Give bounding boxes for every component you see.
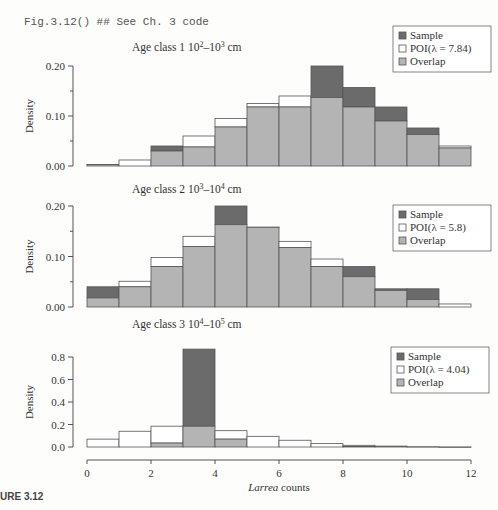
legend: SamplePOI(λ = 4.04)Overlap	[391, 347, 489, 393]
legend-label: POI(λ = 4.04)	[408, 363, 470, 376]
panel-title: Age class 2 103–104 cm	[132, 182, 242, 196]
poi-bar	[439, 447, 471, 448]
poi-bar	[311, 259, 343, 267]
sample-bar	[183, 349, 215, 426]
overlap-bar	[215, 225, 247, 307]
sample-bar	[407, 289, 439, 300]
y-tick-label: 0.10	[46, 251, 66, 263]
overlap-bar	[215, 127, 247, 166]
poi-bar	[183, 136, 215, 147]
poi-bar	[375, 446, 407, 447]
histogram-figure: Age class 1 102–103 cm0.000.100.20Densit…	[0, 0, 498, 510]
poi-bar	[151, 426, 183, 443]
poi-bar	[119, 281, 151, 287]
y-tick-label: 0.4	[51, 396, 65, 408]
legend: SamplePOI(λ = 5.8)Overlap	[393, 205, 491, 251]
overlap-bar	[151, 443, 183, 447]
overlap-bar	[183, 426, 215, 447]
panel-title: Age class 1 102–103 cm	[132, 40, 242, 54]
legend-poi-swatch-icon	[399, 224, 406, 231]
overlap-bar	[87, 165, 119, 167]
y-axis-label: Density	[23, 384, 35, 419]
legend-label: Sample	[410, 208, 443, 220]
overlap-bar	[87, 298, 119, 307]
overlap-bar	[439, 148, 471, 166]
legend-label: Overlap	[408, 376, 444, 388]
y-tick-label: 0.8	[51, 351, 65, 363]
poi-bar	[151, 258, 183, 267]
poi-bar	[279, 241, 311, 247]
x-tick-label: 0	[84, 467, 90, 479]
overlap-bar	[247, 107, 279, 166]
overlap-bar	[183, 246, 215, 307]
y-axis-label: Density	[23, 239, 35, 274]
legend-label: POI(λ = 5.8)	[410, 221, 466, 234]
poi-bar	[279, 96, 311, 107]
overlap-bar	[311, 267, 343, 307]
poi-bar	[215, 119, 247, 128]
y-tick-label: 0.2	[51, 419, 65, 431]
poi-bar	[119, 431, 151, 447]
y-tick-label: 0.6	[51, 374, 65, 386]
legend: SamplePOI(λ = 7.84)Overlap	[393, 26, 491, 72]
legend-label: Overlap	[410, 234, 446, 246]
overlap-bar	[119, 287, 151, 307]
overlap-bar	[407, 135, 439, 167]
overlap-bar	[151, 267, 183, 307]
poi-bar	[215, 431, 247, 439]
overlap-bar	[215, 439, 247, 447]
y-tick-label: 0.00	[46, 160, 66, 172]
y-tick-label: 0.10	[46, 110, 66, 122]
x-tick-label: 12	[466, 467, 477, 479]
legend-overlap-swatch-icon	[397, 379, 404, 386]
panel-3: Age class 3 104–105 cm0.00.20.40.60.8Den…	[23, 317, 489, 493]
y-tick-label: 0.00	[46, 301, 66, 313]
y-tick-label: 0.20	[46, 60, 66, 72]
x-tick-label: 2	[148, 467, 154, 479]
overlap-bar	[407, 299, 439, 307]
overlap-bar	[343, 277, 375, 307]
poi-bar	[247, 436, 279, 447]
overlap-bar	[375, 290, 407, 307]
overlap-bar	[375, 121, 407, 166]
sample-bar	[375, 107, 407, 121]
y-axis-label: Density	[23, 98, 35, 133]
poi-bar	[407, 447, 439, 448]
poi-bar	[247, 104, 279, 108]
sample-bar	[87, 287, 119, 298]
overlap-bar	[279, 107, 311, 166]
poi-bar	[279, 440, 311, 447]
x-axis-label: Larrea counts	[247, 481, 310, 493]
figure-caption: URE 3.12	[0, 491, 43, 502]
y-tick-label: 0.0	[51, 441, 65, 453]
panel-1: Age class 1 102–103 cm0.000.100.20Densit…	[23, 26, 491, 172]
legend-label: POI(λ = 7.84)	[410, 42, 472, 55]
overlap-bar	[151, 151, 183, 166]
legend-overlap-swatch-icon	[399, 58, 406, 65]
overlap-bar	[343, 446, 375, 447]
legend-poi-swatch-icon	[397, 366, 404, 373]
poi-bar	[311, 444, 343, 447]
x-tick-label: 6	[276, 467, 282, 479]
legend-label: Sample	[408, 350, 441, 362]
poi-bar	[87, 439, 119, 447]
sample-bar	[311, 66, 343, 98]
y-tick-label: 0.20	[46, 200, 66, 212]
x-tick-label: 10	[402, 467, 414, 479]
sample-bar	[343, 88, 375, 108]
legend-poi-swatch-icon	[399, 45, 406, 52]
legend-overlap-swatch-icon	[399, 237, 406, 244]
overlap-bar	[343, 107, 375, 166]
sample-bar	[215, 206, 247, 225]
sample-bar	[151, 146, 183, 151]
panel-title: Age class 3 104–105 cm	[132, 317, 242, 331]
x-tick-label: 4	[212, 467, 218, 479]
overlap-bar	[279, 247, 311, 307]
legend-label: Sample	[410, 29, 443, 41]
legend-sample-swatch-icon	[399, 211, 406, 218]
x-tick-label: 8	[340, 467, 346, 479]
panel-2: Age class 2 103–104 cm0.000.100.20Densit…	[23, 182, 491, 313]
legend-sample-swatch-icon	[399, 32, 406, 39]
sample-bar	[343, 267, 375, 277]
legend-sample-swatch-icon	[397, 353, 404, 360]
